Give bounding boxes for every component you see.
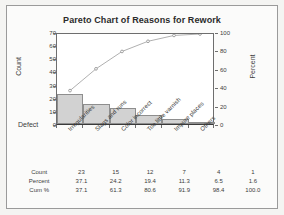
table-cell: 15 (99, 168, 133, 177)
y-tick-label-right: 40 (220, 85, 242, 91)
table-cell: 91.9 (167, 186, 201, 195)
table-cell: 6.5 (201, 177, 235, 186)
table-row: Count231512741 (14, 168, 270, 177)
table-cell: 1 (236, 168, 270, 177)
y-tick-label-right: 60 (220, 67, 242, 73)
y-tick-label-right: 80 (220, 48, 242, 54)
y-tickmark-right (215, 51, 218, 52)
y-tickmark-right (215, 70, 218, 71)
table-row-header: Cum % (14, 186, 64, 195)
table-cell: 7 (167, 168, 201, 177)
table-cell: 37.1 (64, 186, 98, 195)
table-cell: 1.6 (236, 177, 270, 186)
table-cell: 4 (201, 168, 235, 177)
table-cell: 19.4 (133, 177, 167, 186)
y-tickmark-right (215, 107, 218, 108)
table-cell: 37.1 (64, 177, 98, 186)
table-row-header: Count (14, 168, 64, 177)
cumulative-marker (121, 50, 124, 53)
table-row: Cum %37.161.380.691.998.4100.0 (14, 186, 270, 195)
y-axis-left-ticks: 010203040506070 (32, 33, 56, 125)
cumulative-marker (69, 89, 72, 92)
cumulative-marker (173, 34, 176, 37)
table-row: Percent37.124.219.411.36.51.6 (14, 177, 270, 186)
y-tickmark-right (215, 33, 218, 34)
table-cell: 80.6 (133, 186, 167, 195)
table-cell: 98.4 (201, 186, 235, 195)
table-cell: 24.2 (99, 177, 133, 186)
cumulative-marker (199, 34, 202, 35)
y-tickmark-right (215, 88, 218, 89)
table-cell: 100.0 (236, 186, 270, 195)
pareto-chart-figure: Pareto Chart of Reasons for Rework Count… (0, 0, 284, 215)
table-row-header: Percent (14, 177, 64, 186)
cumulative-line (70, 34, 200, 91)
table-cell: 23 (64, 168, 98, 177)
pareto-data-table: Count231512741Percent37.124.219.411.36.5… (14, 168, 270, 195)
y-tick-label-right: 100 (220, 30, 242, 36)
y-axis-right-ticks: 020406080100 (215, 33, 241, 125)
cumulative-marker (147, 40, 150, 43)
y-tickmark-right (215, 125, 218, 126)
y-axis-title-count: Count (15, 45, 22, 89)
chart-title: Pareto Chart of Reasons for Rework (0, 15, 284, 25)
y-axis-title-percent: Percent (249, 43, 256, 91)
y-tick-label-right: 20 (220, 104, 242, 110)
table-cell: 11.3 (167, 177, 201, 186)
x-axis-category-labels: IrregularitiesSlags and runsColor incorr… (56, 128, 226, 168)
table-cell: 61.3 (99, 186, 133, 195)
cumulative-marker (95, 67, 98, 70)
table-cell: 12 (133, 168, 167, 177)
